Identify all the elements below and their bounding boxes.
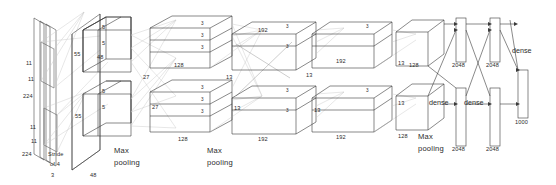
maxpool-3-label-line1: Max [418, 132, 433, 142]
conv1-depth-bottom-label: 48 [90, 172, 97, 178]
fc7-column-bottom [490, 88, 500, 146]
conv2-volume-bottom [150, 80, 232, 132]
maxpool-2-label-line1: Max [207, 146, 222, 156]
conv2-depth-bottom-label: 128 [178, 136, 188, 142]
dense-label-1: dense [429, 98, 449, 107]
conv1-kernel-bottom-b-label: 5 [102, 104, 105, 110]
fc6-column-top [456, 18, 466, 62]
input-kernel-h-label: 11 [26, 60, 32, 66]
conv4-depth-top-label: 192 [336, 58, 346, 64]
conv2-kernel-e-label: 3 [201, 97, 204, 102]
conv2-kernel-b-label: 3 [201, 33, 204, 38]
fc7-top-units-label: 2048 [486, 62, 499, 68]
conv4-spatial-top-label: 13 [306, 72, 313, 78]
conv3-kernel-a-label: 3 [286, 24, 289, 29]
maxpool-2-label-line2: pooling [207, 158, 233, 168]
conv3-kernel-d-label: 3 [286, 108, 289, 113]
input-channels-label: 3 [51, 172, 54, 178]
fc6-bottom-units-label: 2048 [452, 146, 465, 152]
conv4-depth-bottom-label: 192 [336, 134, 346, 140]
conv4-kernel-b-label: 3 [366, 88, 369, 93]
input-kernel-w-label: 11 [28, 76, 34, 82]
fc7-column-top [490, 18, 500, 62]
input-height-label: 224 [23, 93, 33, 99]
maxpool-3-label-line2: pooling [418, 144, 444, 154]
fc6-top-units-label: 2048 [452, 62, 465, 68]
conv2-volume-top [150, 16, 232, 68]
alexnet-architecture-figure: 11 11 224 11 11 224 Stride of 4 3 55 55 … [0, 0, 556, 185]
conv4-spatial-bottom-label: 13 [314, 107, 321, 113]
conv2-spatial-bottom-label: 27 [152, 104, 159, 110]
fc6-column-bottom [456, 88, 466, 146]
conv4-to-conv5-rays [374, 30, 416, 132]
conv2-spatial-top-label: 27 [143, 74, 150, 80]
input-width-label: 224 [22, 151, 32, 157]
conv4-volume-top [312, 22, 392, 68]
crossing-diagonals-a [236, 42, 292, 96]
conv1-depth-label: 48 [97, 54, 104, 60]
stride-label-line2: of 4 [50, 161, 60, 167]
conv2-to-conv3-rays [210, 24, 262, 132]
output-column [518, 70, 528, 118]
conv1-to-conv2-rays [131, 20, 176, 128]
conv2-depth-top-label: 128 [174, 62, 184, 68]
conv2-kernel-d-label: 3 [201, 85, 204, 90]
maxpool-1-label-line1: Max [114, 146, 129, 156]
conv3-kernel-b-label: 3 [286, 44, 289, 49]
conv3-depth-top-label: 192 [258, 27, 268, 33]
conv3-spatial-top-label: 13 [226, 74, 233, 80]
conv2-kernel-c-label: 3 [201, 45, 204, 50]
conv3-kernel-c-label: 3 [286, 88, 289, 93]
conv2-kernel-f-label: 3 [201, 109, 204, 114]
stride-label-line1: Stride [48, 151, 64, 157]
conv1-kernel-top [83, 17, 131, 72]
output-units-label: 1000 [515, 119, 528, 125]
architecture-linework [0, 0, 556, 185]
conv2-kernel-a-label: 3 [201, 21, 204, 26]
conv1-kernel-bottom-a-label: 5 [102, 88, 105, 94]
conv4-kernel-a-label: 3 [366, 24, 369, 29]
conv3-depth-bottom-label: 192 [258, 136, 268, 142]
conv1-spatial-bottom-label: 55 [75, 113, 82, 119]
conv3-to-conv4-rays [316, 28, 344, 118]
conv1-kernel-bottom [83, 81, 131, 136]
input-kernel-w2-label: 11 [31, 138, 37, 144]
conv5-spatial-top-label: 13 [398, 60, 405, 66]
conv1-spatial-top-label: 55 [74, 51, 81, 57]
dense-label-2: dense [464, 98, 484, 107]
dense-label-3: dense [512, 46, 532, 55]
maxpool-1-label-line2: pooling [114, 158, 140, 168]
conv1-kernel-top-label: 5 [102, 24, 105, 30]
input-kernel-h2-label: 11 [30, 124, 36, 130]
conv3-spatial-bottom-label: 13 [234, 105, 241, 111]
fc-connection-arrows [428, 20, 518, 104]
conv3-volume-top [232, 22, 316, 70]
conv5-volume-bottom [396, 84, 444, 130]
conv5-spatial-bottom-label: 13 [398, 100, 405, 106]
conv3-volume-bottom [232, 86, 316, 134]
conv5-depth-bottom-label: 128 [398, 133, 408, 139]
fc7-bottom-units-label: 2048 [486, 146, 499, 152]
conv5-depth-top-label: 128 [409, 62, 419, 68]
conv1-kernel-mid-label: 5 [102, 40, 105, 46]
conv4-volume-bottom [312, 86, 392, 132]
